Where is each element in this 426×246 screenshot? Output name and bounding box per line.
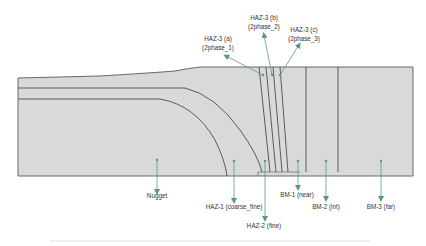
- label-haz3b-line2: (2phase_2): [248, 23, 280, 31]
- label-haz1: HAZ-1 (coarse_fine): [206, 203, 263, 211]
- faint-caption-line: [50, 240, 370, 242]
- label-haz3a-line1: HAZ-3 (a): [204, 35, 232, 43]
- label-bm2: BM-2 (int): [312, 203, 340, 211]
- label-haz3c-line1: HAZ-3 (c): [290, 26, 317, 34]
- label-bm1: BM-1 (near): [280, 191, 314, 199]
- label-haz3c-line2: (2phase_3): [288, 35, 320, 43]
- label-haz3b-line1: HAZ-3 (b): [250, 14, 278, 22]
- label-bm3: BM-3 (far): [367, 203, 395, 211]
- label-haz2: HAZ-2 (fine): [247, 222, 281, 230]
- label-haz3a-line2: (2phase_1): [202, 44, 234, 52]
- label-nugget: Nugget: [147, 192, 168, 200]
- specimen-cross-section: [18, 67, 413, 176]
- weld-zone-diagram: Nugget HAZ-1 (coarse_fine) HAZ-2 (fine) …: [0, 0, 426, 246]
